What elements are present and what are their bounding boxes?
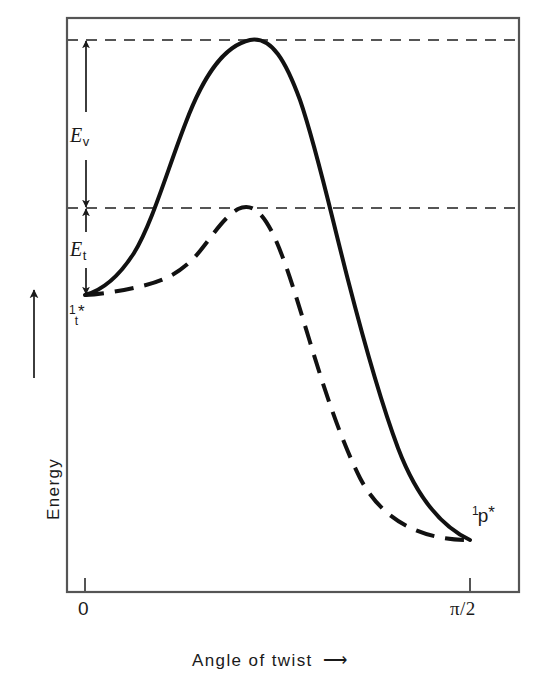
state-end-letter: p (478, 505, 489, 526)
curve-solid-upper-barrier (85, 40, 470, 540)
state-start-asterisk: * (78, 302, 85, 321)
energy-gap-label-lower: Et (70, 239, 86, 262)
energy-gap-upper-subscript: v (83, 134, 90, 149)
y-axis-title-wrapper: Energy (0, 330, 60, 530)
x-tick-label-0: 0 (78, 599, 89, 618)
guide-lines (67, 40, 519, 208)
energy-gap-lower-subscript: t (83, 248, 87, 263)
x-tick-label-pi-over-2: π/2 (450, 599, 476, 618)
plot-frame (67, 18, 519, 592)
x-axis-ticks (85, 578, 470, 592)
energy-gap-label-upper: Ev (70, 125, 89, 148)
state-label-end: 1p* (472, 504, 495, 525)
plot-svg (0, 0, 539, 699)
x-axis-title-arrow: ⟶ (323, 651, 347, 670)
x-axis-title-wrapper: Angle of twist⟶ (192, 650, 347, 671)
energy-gap-upper-symbol: E (70, 124, 82, 146)
x-axis-title: Angle of twist (192, 651, 313, 670)
y-axis-title: Energy (44, 458, 64, 520)
state-end-asterisk: * (488, 503, 495, 522)
figure-container: Ev Et 1t* 1p* 0 π/2 Energy Angle of twis… (0, 0, 539, 699)
curve-dashed-lower-barrier (85, 207, 470, 540)
state-label-start: 1t* (69, 303, 85, 327)
energy-gap-lower-symbol: E (70, 238, 82, 260)
